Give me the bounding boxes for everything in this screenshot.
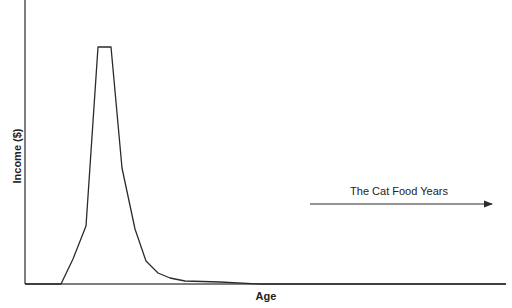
- y-axis-label: Income ($): [11, 128, 23, 183]
- chart-plot: [0, 0, 512, 308]
- x-axis-label: Age: [256, 290, 277, 302]
- income-line: [25, 47, 506, 284]
- annotation-label: The Cat Food Years: [350, 185, 448, 197]
- chart-container: Income ($) Age The Cat Food Years: [0, 0, 512, 308]
